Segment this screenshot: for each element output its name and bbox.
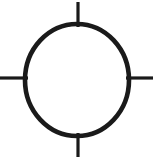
crosshair-target-svg: Crosshair Target Reticle Bold black circ… (0, 0, 157, 160)
figure-canvas: Crosshair Target Reticle Bold black circ… (0, 0, 157, 160)
outer-ring-circle (25, 24, 129, 136)
